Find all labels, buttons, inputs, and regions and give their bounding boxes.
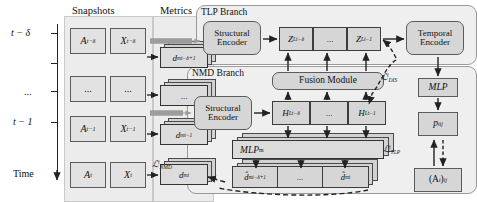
mlp-head-label: MLP (429, 83, 448, 93)
snapshot-feat-0: Xt−δ (110, 28, 146, 54)
loss-nmd-label: ℒtNMD (152, 159, 172, 169)
nmd-state-1-sym: ... (326, 108, 333, 118)
target-sym: (A (429, 175, 439, 185)
loss-dis-sub: DIS (389, 77, 398, 83)
nmd-state-0-sym: H (282, 108, 289, 118)
nmd-fusion-label: Fusion Module (299, 76, 357, 86)
temporal-encoder: Temporal Encoder (406, 21, 464, 55)
snapshots-header: Snapshots (72, 5, 115, 16)
temporal-encoder-line2: Encoder (420, 38, 450, 47)
tlp-state-0: ZLt−δ (279, 27, 313, 51)
time-axis-line (57, 24, 58, 176)
snapshot-feat-2: Xt−1 (110, 116, 146, 142)
snapshot-adj-1-text: ... (84, 84, 92, 94)
nmd-branch-label: NMD Branch (192, 68, 244, 78)
loss-tlp-label: ℒtTLP (383, 144, 400, 154)
time-tick-label-2: t − 1 (13, 116, 33, 127)
nmd-structural-encoder: Structural Encoder (194, 96, 252, 130)
snapshot-adj-1: ... (70, 76, 106, 102)
nmd-mlp-m-label: MLP (240, 145, 259, 155)
tlp-branch-label: TLP Branch (201, 7, 247, 17)
loss-tlp-sub: TLP (391, 149, 401, 155)
snapshot-adj-3: At (70, 162, 106, 188)
nmd-state-1: ... (310, 101, 348, 125)
snapshot-feat-0-text: X (121, 36, 127, 46)
snapshot-feat-1: ... (110, 76, 146, 102)
nmd-state-2: HLt−1 (348, 101, 386, 125)
time-tick-2 (51, 63, 58, 64)
time-tick-1 (51, 33, 58, 34)
tlp-state-1: ... (313, 27, 347, 51)
target-node: (At)ij (414, 168, 462, 192)
mlp-head: MLP (418, 78, 458, 97)
snapshot-feat-2-text: X (120, 124, 126, 134)
nmd-fusion-module: Fusion Module (272, 72, 384, 90)
time-axis-label: Time (13, 168, 34, 179)
prediction-node: ptij (418, 112, 458, 136)
time-tick-label-0: t − δ (11, 27, 30, 38)
snapshot-adj-0: At−δ (70, 28, 106, 54)
tlp-encoder-line2: Encoder (217, 38, 247, 47)
loss-dis-label: ℒtDIS (381, 72, 397, 82)
nmd-encoder-line2: Encoder (208, 113, 238, 122)
time-tick-3 (51, 91, 58, 92)
diagram-canvas: Snapshots Metrics t − δ ... t − 1 Time A… (0, 0, 477, 202)
snapshot-adj-2-text: A (80, 124, 86, 134)
nmd-output-0: d̂mt−δ+1 (232, 166, 278, 188)
loss-nmd-sub: NMD (160, 164, 172, 170)
nmd-output-1: ... (277, 166, 323, 188)
nmd-state-2-sym: H (358, 108, 365, 118)
snapshot-adj-2: At−1 (70, 116, 106, 142)
metrics-header: Metrics (160, 5, 192, 16)
tlp-state-2: ZLt−1 (347, 27, 381, 51)
nmd-output-2: d̂mt (322, 166, 369, 188)
snapshot-feat-3: Xt (110, 162, 146, 188)
nmd-state-0: HLt−δ (272, 101, 310, 125)
nmd-output-1-sym: ... (297, 172, 303, 182)
snapshot-feat-1-text: ... (124, 84, 132, 94)
snapshot-adj-0-text: A (81, 36, 87, 46)
metric-1-sym: ... (181, 91, 188, 101)
time-tick-4 (51, 122, 58, 123)
time-tick-label-1: ... (24, 86, 32, 97)
tlp-structural-encoder: Structural Encoder (203, 21, 261, 55)
tlp-state-1-sym: ... (327, 34, 334, 44)
